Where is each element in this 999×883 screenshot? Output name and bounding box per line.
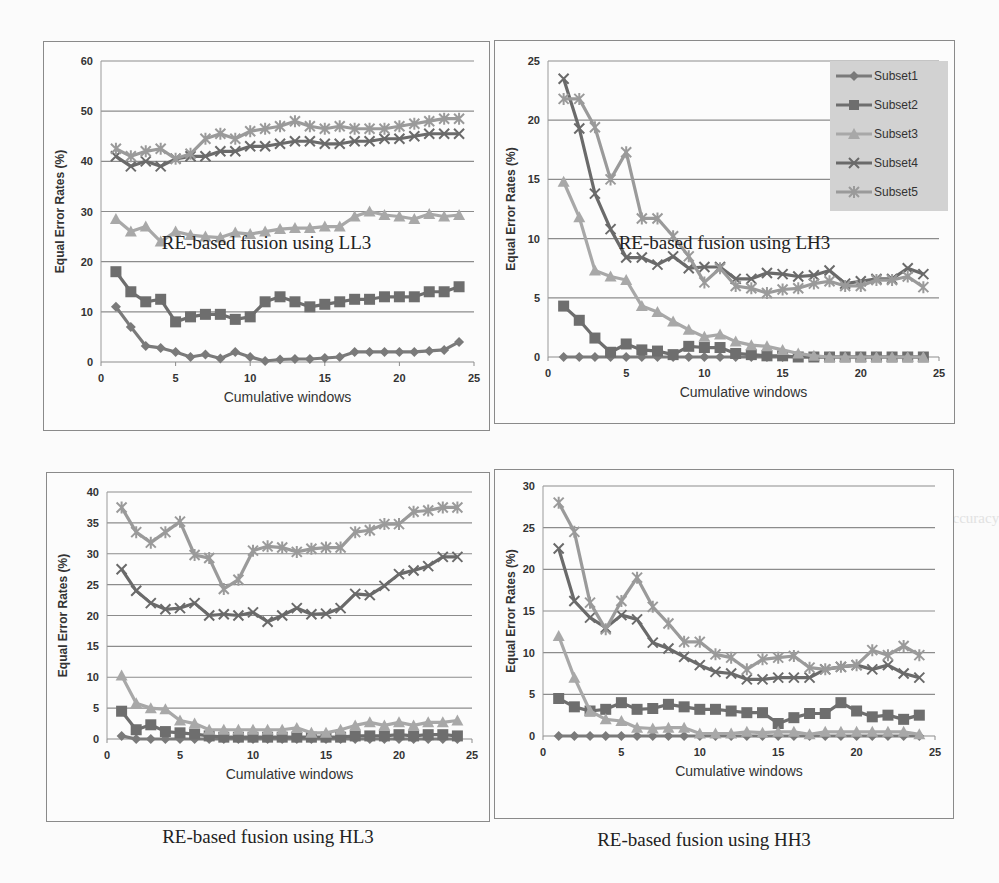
y-tick-label: 10 [81,306,93,318]
x-tick-label: 10 [244,372,256,384]
x-tick-label: 25 [468,372,480,384]
series-subset5 [554,497,925,676]
y-tick-label: 15 [523,605,535,617]
x-axis-title: Cumulative windows [675,763,803,779]
chart-legend: Subset1 Subset2 Subset3 Subset4 Subset5 [830,61,948,211]
x-tick-label: 0 [104,749,110,761]
x-tick-label: 10 [247,749,259,761]
x-tick-label: 20 [855,367,867,379]
y-tick-label: 15 [87,640,99,652]
legend-label: Subset1 [874,69,918,83]
y-tick-label: 50 [81,105,93,117]
x-tick-label: 0 [98,372,104,384]
y-tick-label: 40 [87,486,99,498]
triangle-marker-icon [836,127,872,141]
y-tick-label: 10 [87,671,99,683]
legend-item-subset4: Subset4 [836,156,918,170]
y-tick-label: 20 [81,256,93,268]
x-tick-label: 20 [393,372,405,384]
x-tick-label: 25 [466,749,478,761]
x-tick-label: 25 [929,746,941,758]
x-tick-label: 20 [393,749,405,761]
y-tick-label: 30 [87,548,99,560]
y-tick-label: 5 [529,688,535,700]
x-axis-title: Cumulative windows [680,384,808,400]
series-subset2 [110,266,464,327]
x-tick-label: 25 [933,367,945,379]
legend-item-subset2: Subset2 [836,98,918,112]
line-chart-hh3: 0510152025300510152025Cumulative windows… [495,470,955,820]
x-tick-label: 10 [698,367,710,379]
x-tick-label: 0 [545,367,551,379]
x-tick-label: 15 [772,746,784,758]
x-tick-label: 15 [320,749,332,761]
caption-hl3: RE-based fusion using HL3 [46,826,490,848]
chart-panel-hl3: 05101520253035400510152025Cumulative win… [46,472,490,822]
x-tick-label: 5 [177,749,183,761]
caption-hh3: RE-based fusion using HH3 [494,829,914,851]
x-tick-label: 5 [623,367,629,379]
y-tick-label: 15 [528,173,540,185]
x-marker-icon [836,156,872,170]
y-tick-label: 25 [523,522,535,534]
y-tick-label: 10 [523,647,535,659]
y-tick-label: 25 [528,55,540,67]
x-tick-label: 5 [173,372,179,384]
line-chart-hl3: 05101520253035400510152025Cumulative win… [47,473,491,823]
y-tick-label: 5 [93,702,99,714]
chart-panel-hh3: 0510152025300510152025Cumulative windows… [494,469,954,819]
y-axis-title: Equal Error Rates (%) [56,554,70,677]
y-tick-label: 0 [93,733,99,745]
y-tick-label: 0 [529,730,535,742]
x-tick-label: 0 [540,746,546,758]
legend-label: Subset4 [874,156,918,170]
legend-item-subset5: Subset5 [836,185,918,199]
y-tick-label: 5 [534,292,540,304]
y-tick-label: 40 [81,155,93,167]
x-tick-label: 20 [850,746,862,758]
diamond-marker-icon [836,69,872,83]
y-tick-label: 30 [523,480,535,492]
star-marker-icon [836,185,872,199]
x-axis-title: Cumulative windows [226,766,354,782]
y-tick-label: 35 [87,517,99,529]
legend-item-subset3: Subset3 [836,127,918,141]
square-marker-icon [836,98,872,112]
caption-ll3: RE-based fusion using LL3 [43,232,490,254]
x-tick-label: 15 [319,372,331,384]
x-axis-title: Cumulative windows [224,389,352,405]
y-tick-label: 20 [528,114,540,126]
y-tick-label: 20 [87,610,99,622]
y-axis-title: Equal Error Rates (%) [504,549,518,672]
legend-label: Subset2 [874,98,918,112]
y-tick-label: 25 [87,579,99,591]
y-tick-label: 0 [87,356,93,368]
series-subset5 [117,501,463,595]
y-tick-label: 60 [81,55,93,67]
caption-lh3: RE-based fusion using LH3 [494,232,955,254]
x-tick-label: 5 [618,746,624,758]
x-tick-label: 10 [694,746,706,758]
legend-label: Subset3 [874,127,918,141]
x-tick-label: 15 [776,367,788,379]
y-tick-label: 0 [534,351,540,363]
y-axis-title: Equal Error Rates (%) [53,150,67,273]
y-tick-label: 30 [81,206,93,218]
legend-item-subset1: Subset1 [836,69,918,83]
legend-label: Subset5 [874,185,918,199]
y-tick-label: 20 [523,563,535,575]
series-subset2 [558,301,929,363]
